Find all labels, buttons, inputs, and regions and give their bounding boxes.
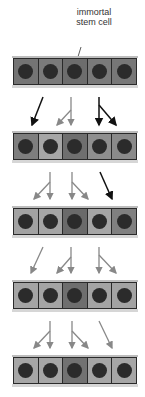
nucleus: [67, 363, 82, 378]
nucleus: [67, 214, 82, 229]
cell: [112, 209, 136, 234]
cell: [39, 134, 64, 159]
nucleus: [117, 363, 132, 378]
nucleus: [67, 64, 82, 79]
nucleus: [18, 64, 33, 79]
cell: [88, 358, 113, 383]
cell: [39, 209, 64, 234]
nucleus: [67, 288, 82, 303]
stem-cell: [63, 283, 88, 308]
cell: [39, 358, 64, 383]
cell: [14, 283, 39, 308]
cell: [14, 209, 39, 234]
cell: [39, 59, 64, 84]
nucleus: [92, 288, 107, 303]
cell: [14, 358, 39, 383]
cell-row-3: [13, 208, 137, 235]
nucleus: [43, 363, 58, 378]
nucleus: [117, 214, 132, 229]
cell: [112, 134, 136, 159]
nucleus: [92, 214, 107, 229]
cell: [14, 59, 39, 84]
cell: [112, 358, 136, 383]
cell: [112, 283, 136, 308]
cell-row-1: [13, 58, 137, 85]
nucleus: [92, 139, 107, 154]
nucleus: [18, 288, 33, 303]
nucleus: [67, 139, 82, 154]
nucleus: [92, 363, 107, 378]
stem-cell: [63, 358, 88, 383]
cell: [112, 59, 136, 84]
stem-cell: [63, 134, 88, 159]
nucleus: [43, 139, 58, 154]
cell: [88, 134, 113, 159]
nucleus: [43, 64, 58, 79]
nucleus: [117, 64, 132, 79]
nucleus: [117, 139, 132, 154]
nucleus: [117, 288, 132, 303]
cell-row-4: [13, 282, 137, 309]
cell: [88, 59, 113, 84]
cell: [39, 283, 64, 308]
nucleus: [18, 363, 33, 378]
cell-row-5: [13, 357, 137, 384]
nucleus: [43, 288, 58, 303]
cell: [14, 134, 39, 159]
nucleus: [18, 139, 33, 154]
nucleus: [18, 214, 33, 229]
cell-row-2: [13, 133, 137, 160]
cell: [88, 283, 113, 308]
stem-cell: [63, 59, 88, 84]
cell: [88, 209, 113, 234]
stem-cell: [63, 209, 88, 234]
nucleus: [43, 214, 58, 229]
nucleus: [92, 64, 107, 79]
